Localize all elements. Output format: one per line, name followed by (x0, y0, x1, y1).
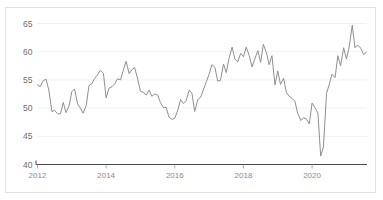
x-axis-group (36, 161, 367, 169)
x-tick-label: 2016 (166, 171, 184, 180)
y-tick-label: 65 (23, 19, 33, 29)
x-axis-labels-group: 20122014201620182020 (29, 171, 322, 180)
gridlines-group (38, 24, 368, 137)
y-tick-label: 45 (23, 131, 33, 141)
y-tick-label: 60 (23, 47, 33, 57)
chart-plot-area: 404550556065 20122014201620182020 (0, 0, 383, 200)
x-tick-label: 2020 (303, 171, 321, 180)
x-tick-label: 2012 (29, 171, 47, 180)
x-tick-label: 2014 (97, 171, 115, 180)
y-tick-label: 50 (23, 103, 33, 113)
y-tick-label: 40 (23, 160, 33, 170)
y-tick-label: 55 (23, 75, 33, 85)
y-axis-labels-group: 404550556065 (23, 19, 33, 170)
x-tick-label: 2018 (235, 171, 253, 180)
line-chart-svg: 404550556065 20122014201620182020 (0, 0, 383, 200)
